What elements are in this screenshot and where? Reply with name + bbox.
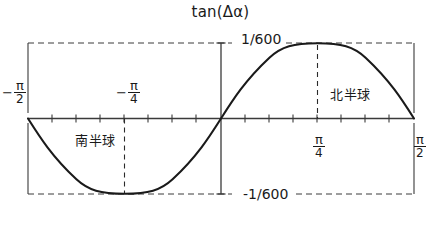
- denominator-right: 2: [414, 147, 426, 159]
- minus-sign-left: −: [2, 86, 13, 99]
- x-axis-label-minus-pi-over-2: − π 2: [2, 79, 26, 105]
- y-axis-top-value-label: 1/600: [241, 32, 281, 46]
- chart-plot-area: [0, 0, 441, 225]
- y-axis-bottom-value-label: -1/600: [243, 187, 288, 201]
- x-axis-label-pi-over-2: π 2: [414, 131, 426, 159]
- annotation-south-hemisphere: 南半球: [75, 134, 116, 147]
- numerator-pi-right: π: [414, 133, 426, 146]
- annotation-north-hemisphere: 北半球: [330, 88, 371, 101]
- denominator-midright: 4: [313, 147, 325, 159]
- chart-figure: tan(Δα) 1/600 -1/600 − π 2 − π 4 π: [0, 0, 441, 225]
- denominator-midleft: 4: [128, 93, 140, 105]
- denominator-left: 2: [14, 93, 26, 105]
- numerator-pi-left: π: [14, 79, 26, 92]
- numerator-pi-midright: π: [313, 133, 325, 146]
- x-axis-label-minus-pi-over-4: − π 4: [116, 79, 140, 105]
- minus-sign-midleft: −: [116, 86, 127, 99]
- chart-title: tan(Δα): [0, 5, 441, 20]
- x-axis-label-pi-over-4: π 4: [313, 131, 325, 159]
- numerator-pi-midleft: π: [128, 79, 140, 92]
